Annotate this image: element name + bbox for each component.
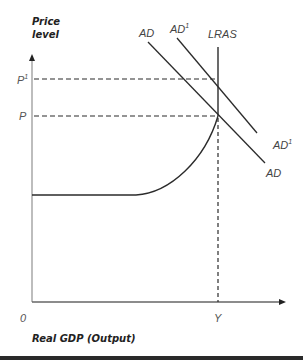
p-tick-label: P: [19, 110, 27, 122]
ad-label-bottom: AD: [265, 167, 281, 179]
aggregate-supply-curve: [32, 116, 218, 195]
ad-label-top: AD: [138, 27, 154, 39]
ad1-label-top: AD1: [169, 22, 189, 35]
origin-label: 0: [20, 312, 27, 324]
y-axis-title-line2: level: [32, 29, 60, 40]
y-axis-title-line1: Price: [32, 16, 60, 27]
y-axis-arrow-icon: [29, 54, 35, 61]
x-axis-title: Real GDP (Output): [32, 333, 136, 344]
y-tick-label: Y: [214, 312, 222, 324]
p1-tick-label: P1: [17, 73, 28, 86]
ad-curve: [148, 42, 265, 163]
x-axis-arrow-icon: [279, 299, 286, 305]
lras-label: LRAS: [208, 28, 237, 40]
ad-as-diagram: Price level AD AD1 LRAS AD1 AD P1 P 0 Y …: [0, 0, 303, 360]
bottom-border: [0, 356, 303, 360]
ad1-label-bottom: AD1: [272, 138, 292, 151]
